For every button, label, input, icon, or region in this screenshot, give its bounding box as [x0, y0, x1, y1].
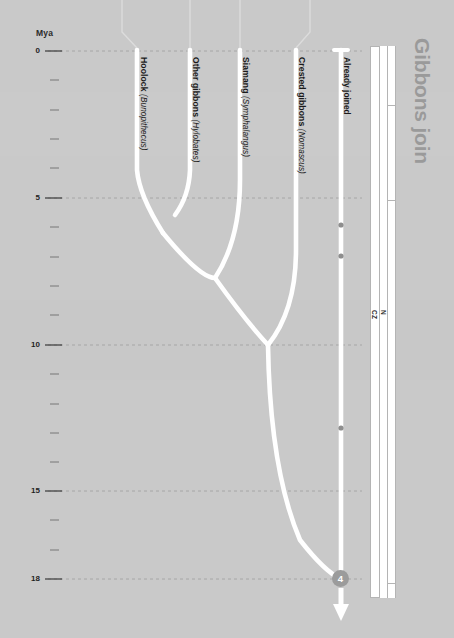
geologic-period-label: N — [380, 310, 387, 315]
already-joined-label: Already joined — [342, 57, 352, 115]
tip-genus-siamang: (Symphalangus) — [241, 96, 250, 157]
axis-tick-10: 10 — [18, 340, 40, 349]
geologic-epoch-divider-2 — [387, 200, 396, 201]
tip-common-siamang: Siamang — [241, 57, 251, 94]
tip-genus-other-gibbons: (Hylobates) — [191, 120, 200, 163]
tip-label-siamang: Siamang (Symphalangus) — [241, 57, 251, 157]
tip-common-hoolock: Hoolock — [139, 57, 149, 92]
tip-common-other-gibbons: Other gibbons — [191, 57, 201, 117]
axis-tick-15: 15 — [18, 486, 40, 495]
geologic-era-label: CZ — [371, 310, 378, 319]
axis-tick-5: 5 — [18, 193, 40, 202]
axis-tick-0: 0 — [18, 46, 40, 55]
geologic-epoch-column — [387, 46, 396, 598]
tip-label-crested-gibbons: Crested gibbons (Nomascus) — [297, 57, 307, 174]
tip-label-hoolock: Hoolock (Bunopithecus) — [139, 57, 149, 151]
gibbons-phylogeny-panel: Mya 0 5 10 15 18 Hoolock (Bunopithecus) … — [0, 0, 454, 638]
tip-label-other-gibbons: Other gibbons (Hylobates) — [191, 57, 201, 163]
tip-genus-hoolock: (Bunopithecus) — [139, 94, 148, 150]
axis-tick-18: 18 — [18, 574, 40, 583]
geologic-epoch-divider-1 — [387, 105, 396, 106]
page-title: Gibbons join — [410, 38, 434, 164]
geologic-epoch-divider-3 — [387, 583, 396, 584]
tip-common-crested-gibbons: Crested gibbons — [297, 57, 307, 126]
node-badge-4: 4 — [332, 570, 349, 587]
tip-genus-crested-gibbons: (Nomascus) — [297, 129, 306, 174]
axis-unit-label: Mya — [36, 28, 53, 38]
